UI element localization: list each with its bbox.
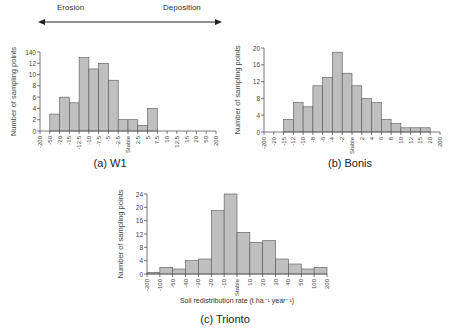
svg-text:-200: -200 — [144, 278, 150, 291]
histogram-bar — [313, 86, 323, 132]
svg-text:Stable: Stable — [125, 135, 131, 153]
svg-text:12: 12 — [136, 231, 144, 238]
svg-text:10: 10 — [398, 136, 404, 143]
svg-text:24: 24 — [136, 191, 144, 198]
svg-text:-7.5: -7.5 — [96, 135, 102, 146]
svg-text:12: 12 — [253, 78, 261, 85]
svg-text:-6: -6 — [320, 136, 326, 142]
svg-text:-12.5: -12.5 — [76, 135, 82, 149]
svg-text:-30: -30 — [195, 278, 201, 287]
svg-text:-200: -200 — [37, 135, 43, 148]
caption-trionto: (c) Trionto — [175, 313, 275, 325]
svg-text:-12: -12 — [290, 136, 296, 145]
x-axis-label: Soil redistribution rate (t ha⁻¹ year⁻¹) — [152, 297, 322, 305]
svg-text:Stable: Stable — [234, 278, 240, 296]
histogram-bar — [411, 128, 421, 132]
svg-text:2: 2 — [359, 136, 365, 140]
histogram-bar — [420, 128, 430, 132]
histogram-bar — [352, 86, 362, 132]
histogram-bar — [381, 119, 391, 132]
svg-text:0: 0 — [139, 271, 143, 278]
svg-text:6: 6 — [378, 136, 384, 140]
svg-text:8: 8 — [139, 244, 143, 251]
svg-text:-40: -40 — [183, 278, 189, 287]
svg-text:2: 2 — [32, 116, 36, 123]
histogram-bar — [332, 52, 342, 132]
histogram-bar — [276, 259, 289, 274]
svg-text:200: 200 — [437, 136, 443, 147]
histogram-bar — [263, 241, 276, 274]
svg-text:15: 15 — [417, 136, 423, 143]
histogram-bar — [60, 97, 70, 131]
svg-text:15: 15 — [184, 135, 190, 142]
histogram-bar — [314, 267, 327, 274]
histogram-svg: Number of sampling points048121620-200-2… — [224, 40, 449, 170]
svg-text:12: 12 — [29, 60, 37, 67]
svg-text:8: 8 — [32, 82, 36, 89]
svg-text:-10: -10 — [221, 278, 227, 287]
deposition-label: Deposition — [163, 3, 201, 12]
svg-text:-20: -20 — [57, 135, 63, 144]
histogram-bar — [362, 98, 372, 132]
svg-text:-4: -4 — [329, 136, 335, 142]
svg-text:100: 100 — [311, 278, 317, 289]
histogram-bar — [211, 211, 224, 274]
chart-w1: Number of sampling points024681012140-20… — [0, 44, 225, 169]
histogram-bar — [128, 120, 138, 131]
svg-text:Number of sampling points: Number of sampling points — [116, 189, 125, 278]
histogram-bar — [293, 103, 303, 132]
histogram-bar — [250, 242, 263, 274]
svg-text:-20: -20 — [208, 278, 214, 287]
histogram-bar — [69, 103, 79, 131]
histogram-bar — [237, 232, 250, 274]
svg-text:-200: -200 — [261, 136, 267, 149]
histogram-bar — [89, 69, 99, 131]
svg-text:2.5: 2.5 — [135, 135, 141, 144]
svg-text:-8: -8 — [310, 136, 316, 142]
histogram-bar — [288, 264, 301, 274]
svg-text:-10: -10 — [300, 136, 306, 145]
svg-text:4: 4 — [32, 105, 36, 112]
histogram-bar — [50, 114, 60, 131]
svg-text:-20: -20 — [271, 136, 277, 145]
svg-text:50: 50 — [298, 278, 304, 285]
histogram-bar — [323, 77, 333, 132]
svg-text:0: 0 — [32, 128, 36, 135]
chart-bonis: Number of sampling points048121620-200-2… — [224, 40, 449, 170]
svg-text:0: 0 — [256, 129, 260, 136]
svg-text:-15: -15 — [66, 135, 72, 144]
histogram-bar — [138, 125, 148, 131]
svg-text:-10: -10 — [86, 135, 92, 144]
svg-text:8: 8 — [388, 136, 394, 140]
histogram-bar — [224, 194, 237, 274]
chart-trionto: Number of sampling points04812162024-200… — [95, 183, 345, 303]
svg-text:Number of sampling points: Number of sampling points — [233, 45, 242, 134]
svg-text:20: 20 — [260, 278, 266, 285]
svg-text:-50: -50 — [47, 135, 53, 144]
double-arrow-icon — [38, 16, 222, 28]
histogram-bar — [198, 259, 211, 274]
svg-text:20: 20 — [193, 135, 199, 142]
svg-text:140: 140 — [25, 49, 36, 56]
svg-text:6: 6 — [32, 94, 36, 101]
svg-text:-100: -100 — [157, 278, 163, 291]
svg-text:10: 10 — [29, 71, 37, 78]
erosion-label: Erosion — [57, 3, 84, 12]
histogram-bar — [391, 124, 401, 132]
svg-text:200: 200 — [324, 278, 330, 289]
histogram-bar — [186, 261, 199, 274]
svg-text:-15: -15 — [281, 136, 287, 145]
histogram-bar — [372, 103, 382, 132]
svg-text:-2.5: -2.5 — [115, 135, 121, 146]
caption-w1: (a) W1 — [60, 157, 160, 169]
histogram-bar — [342, 73, 352, 132]
histogram-svg: Number of sampling points024681012140-20… — [0, 44, 225, 169]
svg-text:16: 16 — [136, 217, 144, 224]
svg-text:-50: -50 — [170, 278, 176, 287]
svg-text:16: 16 — [253, 61, 261, 68]
svg-text:7.5: 7.5 — [154, 135, 160, 144]
svg-text:10: 10 — [247, 278, 253, 285]
histogram-bar — [118, 120, 128, 131]
histogram-bar — [173, 269, 186, 274]
svg-text:8: 8 — [256, 95, 260, 102]
